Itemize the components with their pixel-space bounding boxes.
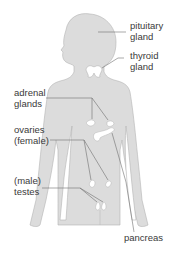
label-pancreas: pancreas bbox=[124, 232, 163, 243]
label-thyroid-gland: thyroid gland bbox=[130, 50, 159, 72]
label-ovaries: ovaries (female) bbox=[14, 124, 49, 146]
adrenal-gland-left bbox=[87, 120, 96, 126]
label-pituitary-line2: gland bbox=[130, 31, 163, 42]
label-ovaries-line2: (female) bbox=[14, 135, 49, 146]
label-pancreas-line1: pancreas bbox=[124, 232, 163, 243]
label-thyroid-line2: gland bbox=[130, 61, 159, 72]
label-ovaries-line1: ovaries bbox=[14, 124, 49, 135]
label-testes-line1: (male) bbox=[14, 175, 41, 186]
label-adrenal-line1: adrenal bbox=[14, 87, 46, 98]
label-thyroid-line1: thyroid bbox=[130, 50, 159, 61]
label-pituitary-gland: pituitary gland bbox=[130, 20, 163, 42]
label-adrenal-line2: glands bbox=[14, 98, 46, 109]
label-pituitary-line1: pituitary bbox=[130, 20, 163, 31]
label-testes-line2: testes bbox=[14, 186, 41, 197]
label-adrenal-glands: adrenal glands bbox=[14, 87, 46, 109]
label-testes: (male) testes bbox=[14, 175, 41, 197]
